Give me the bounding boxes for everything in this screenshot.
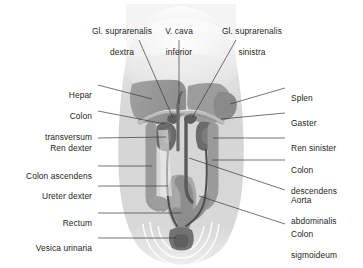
label-line-1: Gl. suprarenalis <box>222 26 282 36</box>
label-vesica-urinaria: Vesica urinaria <box>2 233 92 253</box>
label-ren-dexter: Ren dexter <box>4 133 92 153</box>
label-ren-sinister: Ren sinister <box>291 133 363 153</box>
label-gaster: Gaster <box>291 108 361 128</box>
label-line-1: Hepar <box>69 90 92 100</box>
label-line-1: Colon ascendens <box>26 171 92 181</box>
label-line-1: Colon <box>291 165 313 175</box>
anatomy-figure: Gl. suprarenalis dextra V. cava inferior… <box>0 0 363 268</box>
label-line-1: Splen <box>291 93 313 103</box>
label-line-1: Colon <box>291 229 313 239</box>
label-line-2: inferior <box>166 47 192 57</box>
label-line-1: Ren sinister <box>291 143 336 153</box>
label-line-2: sinistra <box>238 47 265 57</box>
label-line-1: Gaster <box>291 118 317 128</box>
label-line-1: Vesica urinaria <box>36 243 92 253</box>
label-line-1: Ureter dexter <box>42 191 92 201</box>
label-line-2: dextra <box>110 47 134 57</box>
label-v-cava-inferior: V. cava inferior <box>152 16 206 57</box>
label-gl-suprarenalis-sinistra: Gl. suprarenalis sinistra <box>210 16 294 57</box>
label-line-1: Rectum <box>63 218 92 228</box>
label-hepar: Hepar <box>4 80 92 100</box>
label-line-1: Aorta <box>291 195 311 205</box>
label-rectum: Rectum <box>4 208 92 228</box>
label-colon-sigmoideum: Colon sigmoideum <box>291 219 363 260</box>
label-line-1: V. cava <box>165 26 193 36</box>
label-line-2: sigmoideum <box>291 250 337 260</box>
label-line-1: Ren dexter <box>50 143 92 153</box>
label-splen: Splen <box>291 83 361 103</box>
label-line-1: Gl. suprarenalis <box>92 26 152 36</box>
label-ureter-dexter: Ureter dexter <box>4 181 92 201</box>
label-colon-ascendens: Colon ascendens <box>0 161 92 181</box>
label-line-1: Colon <box>70 111 92 121</box>
